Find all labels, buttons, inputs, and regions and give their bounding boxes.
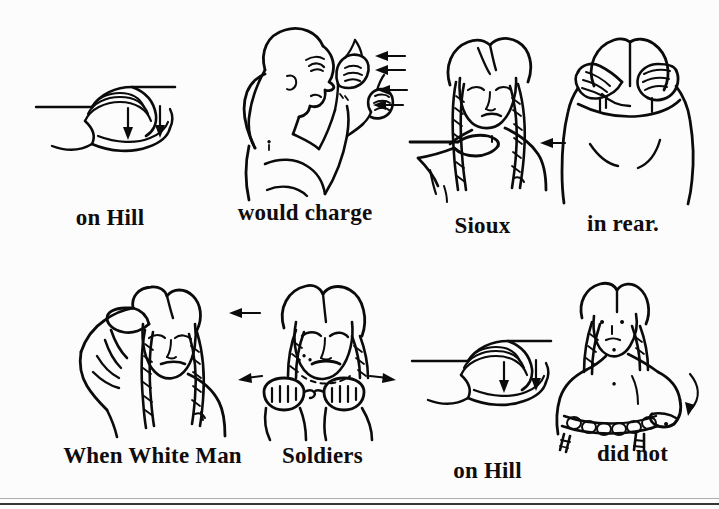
panel-when-white-man: When White Man xyxy=(45,280,260,480)
page-bottom-rule xyxy=(0,503,719,505)
caption-sioux: Sioux xyxy=(400,213,565,239)
panel-soldiers: Soldiers xyxy=(230,280,415,480)
right-arrow-icon xyxy=(370,373,396,383)
left-arrow-icon xyxy=(373,100,403,110)
hand-flat-with-down-arrows-icon xyxy=(20,60,200,190)
figure-hand-across-throat-icon xyxy=(400,30,565,205)
page-rule-faint xyxy=(0,498,719,499)
caption-on-hill-bottom: on Hill xyxy=(400,458,575,484)
caption-in-rear: in rear. xyxy=(548,211,698,237)
figure-two-fists-apart-icon xyxy=(230,280,415,440)
panel-would-charge: would charge xyxy=(205,18,405,236)
hand-flat-with-down-arrows-icon xyxy=(400,315,575,440)
caption-on-hill-top: on Hill xyxy=(20,205,200,231)
panel-on-hill-top: on Hill xyxy=(20,60,200,235)
caption-would-charge: would charge xyxy=(205,200,405,226)
caption-soldiers: Soldiers xyxy=(230,443,415,469)
figure-hand-across-forehead-icon xyxy=(45,280,260,440)
left-arrow-icon xyxy=(238,373,262,383)
figure-hand-sweeping-down-icon xyxy=(550,278,715,448)
panel-sioux: Sioux xyxy=(400,30,565,236)
panel-on-hill-bottom: on Hill xyxy=(400,315,575,480)
caption-when-white-man: When White Man xyxy=(45,443,260,469)
panel-did-not: did not xyxy=(550,278,715,480)
panel-in-rear: in rear. xyxy=(548,28,698,236)
down-arrow-icon xyxy=(499,362,509,393)
caption-did-not: did not xyxy=(550,441,715,467)
figure-from-behind-hands-on-head-icon xyxy=(548,28,698,206)
scanned-page: on Hill xyxy=(0,0,719,509)
down-arrow-icon xyxy=(123,108,133,140)
down-arrow-icon xyxy=(685,374,698,416)
